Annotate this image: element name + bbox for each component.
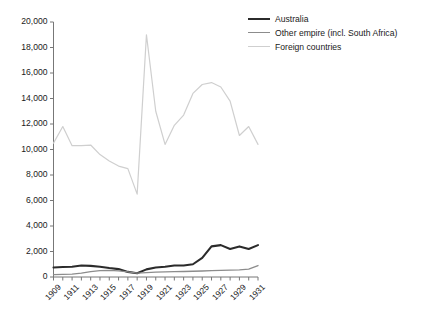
y-axis-tick-label: 12,000 [21,118,47,128]
series-line-foreign-countries [54,35,259,194]
legend-item-australia: Australia [248,12,430,25]
legend-label-australia: Australia [275,14,308,24]
y-axis-tick-label: 8,000 [26,169,48,179]
y-axis-tick-label: 4,000 [26,220,48,230]
axis-lines [54,22,259,277]
y-axis-tick-label: 18,000 [21,42,47,52]
y-axis-tick-label: 10,000 [21,144,47,154]
y-axis-tick-label: 2,000 [26,246,48,256]
y-axis-tick-label: 14,000 [21,93,47,103]
y-axis-tick-label: 6,000 [26,195,48,205]
legend-swatch-other-empire [248,32,270,33]
legend-item-foreign-countries: Foreign countries [248,40,430,53]
y-axis-tick-label: 16,000 [21,67,47,77]
legend-label-foreign-countries: Foreign countries [275,42,341,52]
line-chart: Australia Other empire (incl. South Afri… [0,0,432,320]
legend-swatch-australia [248,18,270,20]
legend-label-other-empire: Other empire (incl. South Africa) [275,28,397,38]
chart-legend: Australia Other empire (incl. South Afri… [248,12,430,54]
legend-swatch-foreign-countries [248,46,270,47]
legend-item-other-empire: Other empire (incl. South Africa) [248,26,430,39]
series-line-australia [54,245,259,273]
y-axis-tick-label: 20,000 [21,16,47,26]
y-axis-tick-label: 0 [43,271,48,281]
